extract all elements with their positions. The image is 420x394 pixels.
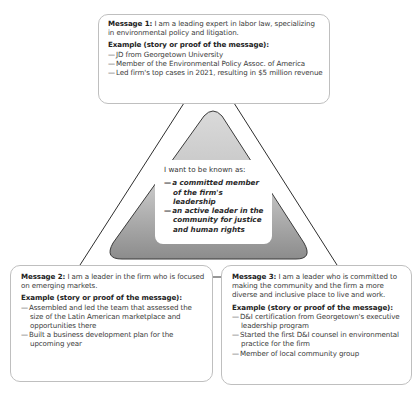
message-1-box: Message 1: I am a leading expert in labo…	[98, 14, 330, 104]
list-item: Assembled and led the team that assessed…	[21, 303, 206, 331]
message-3-examples: D&I certification from Georgetown's exec…	[232, 312, 405, 358]
list-item: a committed member of the firm's leaders…	[164, 178, 266, 206]
message-1-example-title: Example (story or proof of the message):	[108, 40, 323, 49]
message-2-statement: Message 2: I am a leader in the firm who…	[21, 272, 206, 290]
message-3-statement: Message 3: I am a leader who is committe…	[232, 272, 405, 300]
core-identity-box: I want to be known as: a committed membe…	[155, 160, 272, 244]
list-item: JD from Georgetown University	[108, 50, 323, 59]
list-item: Member of local community group	[232, 349, 405, 358]
core-identity-lead: I want to be known as:	[164, 165, 266, 174]
message-2-examples: Assembled and led the team that assessed…	[21, 303, 206, 349]
list-item: an active leader in the community for ju…	[164, 206, 266, 234]
message-2-example-title: Example (story or proof of the message):	[21, 293, 206, 302]
message-1-statement: Message 1: I am a leading expert in labo…	[108, 19, 323, 37]
list-item: Built a business development plan for th…	[21, 330, 206, 348]
list-item: D&I certification from Georgetown's exec…	[232, 312, 405, 330]
message-2-box: Message 2: I am a leader in the firm who…	[10, 265, 213, 382]
core-identity-list: a committed member of the firm's leaders…	[164, 178, 266, 234]
message-1-examples: JD from Georgetown University Member of …	[108, 50, 323, 78]
message-3-box: Message 3: I am a leader who is committe…	[221, 265, 412, 385]
list-item: Led firm's top cases in 2021, resulting …	[108, 68, 323, 77]
message-3-example-title: Example (story or proof of the message):	[232, 303, 405, 312]
list-item: Member of the Environmental Policy Assoc…	[108, 59, 323, 68]
list-item: Started the first D&I counsel in environ…	[232, 330, 405, 348]
